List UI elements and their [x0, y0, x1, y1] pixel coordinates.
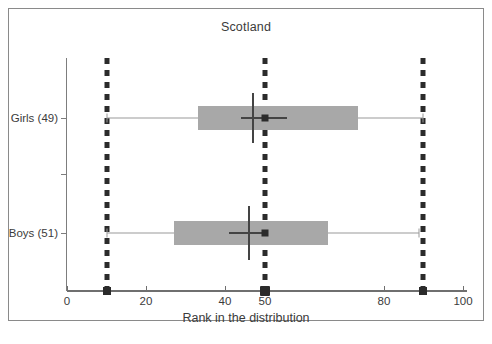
x-tick-label-80: 80 [378, 295, 391, 307]
category-label-girls: Girls (49) [11, 112, 58, 124]
boys-whisker-cap-high [419, 229, 420, 238]
chart-title: Scotland [9, 20, 483, 34]
axis-marker-10 [103, 287, 111, 295]
category-label-group: Girls (49) Boys (51) [0, 0, 58, 344]
x-tick-80 [384, 286, 385, 291]
axis-marker-90 [419, 287, 427, 295]
reference-line-50 [263, 58, 268, 292]
x-tick-0 [67, 286, 68, 291]
girls-mean-marker [262, 115, 269, 122]
x-tick-label-40: 40 [219, 295, 232, 307]
x-tick-label-20: 20 [140, 295, 153, 307]
reference-line-90 [421, 58, 426, 292]
axis-marker-50 [260, 286, 270, 296]
x-tick-label-100: 100 [453, 295, 472, 307]
y-axis-tick-middle [61, 174, 67, 175]
girls-whisker-cap-high [423, 114, 424, 123]
x-tick-20 [146, 286, 147, 291]
boys-mean-marker [262, 230, 269, 237]
y-axis-tick-boys [61, 233, 67, 234]
x-tick-40 [225, 286, 226, 291]
x-axis-title: Rank in the distribution [0, 311, 492, 325]
reference-line-10 [104, 58, 109, 292]
chart-figure-frame: Scotland [8, 8, 484, 321]
girls-whisker-cap-low [106, 114, 107, 123]
boys-whisker-cap-low [106, 229, 107, 238]
x-tick-label-0: 0 [64, 295, 70, 307]
y-axis-tick-girls [61, 118, 67, 119]
x-tick-100 [463, 286, 464, 291]
x-tick-label-50: 50 [259, 295, 272, 307]
category-label-boys: Boys (51) [9, 227, 58, 239]
